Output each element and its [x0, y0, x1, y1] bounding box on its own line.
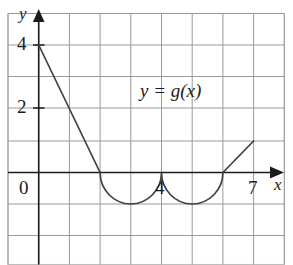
y-axis-label: y: [19, 5, 27, 22]
x-axis-label: x: [274, 176, 282, 193]
grid-frame: [8, 14, 284, 265]
y-tick-label-2: 2: [17, 97, 27, 116]
function-graph-figure: y x 4 2 0 4 7 y = g(x): [0, 0, 293, 265]
origin-label: 0: [19, 178, 29, 197]
y-tick-label-4: 4: [17, 34, 27, 53]
x-tick-label-7: 7: [248, 178, 258, 197]
graph-canvas: [0, 0, 293, 265]
x-tick-label-4: 4: [155, 178, 165, 197]
curve-equation-label: y = g(x): [140, 81, 201, 100]
